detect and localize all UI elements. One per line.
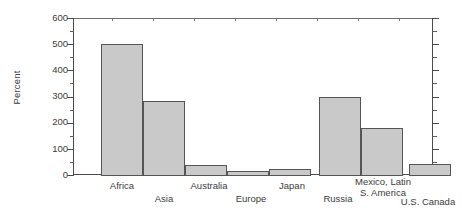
y-right-tick-minor-250 [432, 110, 437, 111]
y-tick-major-300 [67, 97, 74, 98]
top-tick-5 [276, 18, 277, 21]
y-tick-major-400 [67, 70, 74, 71]
x-label-asia: Asia [155, 193, 173, 204]
y-tick-label-500: 500 [28, 39, 68, 49]
y-tick-minor-350 [70, 83, 75, 84]
x-label-australia: Australia [191, 180, 228, 191]
y-tick-minor-150 [70, 136, 75, 137]
y-tick-minor-450 [70, 57, 75, 58]
bar-japan [269, 169, 311, 176]
bar-chart: Percent 600 500 400 300 200 100 0 [0, 0, 462, 218]
y-tick-major-100 [67, 149, 74, 150]
y-tick-label-100: 100 [28, 144, 68, 154]
y-axis-title-text: Percent [11, 70, 22, 104]
y-tick-minor-250 [70, 110, 75, 111]
y-right-tick-minor-50 [432, 162, 437, 163]
y-right-tick-minor-150 [432, 136, 437, 137]
x-label-africa: Africa [110, 180, 134, 191]
bar-us-canada [409, 164, 451, 176]
y-tick-label-600: 600 [28, 13, 68, 23]
top-tick-6 [317, 18, 318, 21]
x-label-russia: Russia [323, 193, 352, 204]
y-right-tick-major-100 [432, 149, 439, 150]
x-label-mexico-line1: Mexico, Latin [355, 176, 411, 187]
x-label-mexico-latin-s-america: Mexico, Latin S. America [355, 176, 411, 198]
y-right-tick-major-300 [432, 97, 439, 98]
y-tick-label-200: 200 [28, 117, 68, 127]
y-tick-major-200 [67, 123, 74, 124]
y-tick-minor-50 [70, 162, 75, 163]
y-tick-minor-550 [70, 31, 75, 32]
top-tick-7 [358, 18, 359, 21]
y-tick-major-0 [67, 175, 74, 176]
x-label-us-canada: U.S. Canada [401, 196, 455, 207]
y-right-tick-major-600 [432, 18, 439, 19]
y-tick-label-400: 400 [28, 65, 68, 75]
y-right-tick-major-200 [432, 123, 439, 124]
top-tick-8 [399, 18, 400, 21]
bar-russia [319, 97, 361, 177]
top-tick-2 [153, 18, 154, 21]
y-right-tick-minor-450 [432, 57, 437, 58]
bar-asia [143, 101, 185, 176]
x-label-europe: Europe [236, 193, 267, 204]
top-tick-1 [112, 18, 113, 21]
top-tick-3 [194, 18, 195, 21]
bar-africa [101, 44, 143, 176]
y-right-tick-minor-350 [432, 83, 437, 84]
y-tick-major-500 [67, 44, 74, 45]
y-tick-major-600 [67, 18, 74, 19]
top-tick-4 [235, 18, 236, 21]
bar-europe [227, 171, 269, 176]
y-right-tick-minor-550 [432, 31, 437, 32]
y-tick-label-0: 0 [28, 170, 68, 180]
x-label-japan: Japan [279, 180, 305, 191]
bar-mexico-latin-s-america [361, 128, 403, 176]
y-tick-label-300: 300 [28, 91, 68, 101]
y-right-tick-major-500 [432, 44, 439, 45]
y-right-tick-major-400 [432, 70, 439, 71]
bar-australia [185, 165, 227, 176]
y-axis-title: Percent [4, 0, 28, 175]
